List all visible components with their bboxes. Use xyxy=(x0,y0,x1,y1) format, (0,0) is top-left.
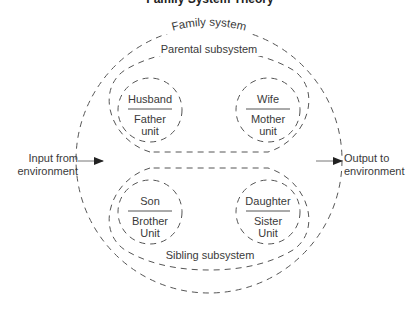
output-label: Output to environment xyxy=(344,152,418,178)
cut-off-title: Family System Theory xyxy=(120,0,300,4)
mother-unit-label: unit xyxy=(238,125,298,138)
father-unit-label: unit xyxy=(120,125,180,138)
brother-unit-label: Unit xyxy=(120,227,180,240)
sibling-subsystem-label: Sibling subsystem xyxy=(155,249,265,262)
daughter-label: Daughter xyxy=(238,195,298,208)
output-line1: Output to xyxy=(344,152,389,164)
wife-label: Wife xyxy=(238,93,298,106)
input-line1: Input from xyxy=(28,152,78,164)
son-label: Son xyxy=(120,195,180,208)
husband-label: Husband xyxy=(120,93,180,106)
parental-subsystem-label: Parental subsystem xyxy=(152,43,266,56)
sister-unit-label: Unit xyxy=(238,227,298,240)
input-label: Input from environment xyxy=(2,152,78,178)
output-line2: environment xyxy=(344,165,405,177)
input-line2: environment xyxy=(17,165,78,177)
